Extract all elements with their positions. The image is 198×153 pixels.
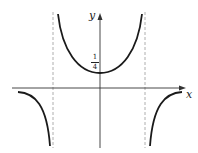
y-intercept-label: 1 4 [91, 54, 99, 71]
y-axis-label: y [89, 10, 95, 21]
function-graph [0, 0, 198, 153]
y-axis-arrow-icon [98, 13, 103, 20]
fraction-numerator: 1 [93, 53, 97, 61]
x-axis-arrow-icon [179, 86, 186, 91]
left-branch-curve [18, 92, 50, 146]
right-branch-curve [150, 92, 182, 146]
fraction-denominator: 4 [93, 63, 97, 71]
x-axis-label: x [186, 89, 192, 100]
